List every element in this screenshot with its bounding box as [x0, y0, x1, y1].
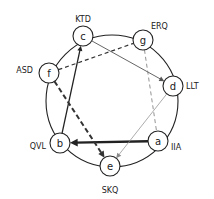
arrowhead-icon [116, 153, 121, 158]
node-letter: e [107, 161, 113, 172]
node-b: bQVL [30, 133, 70, 153]
node-c: cKTD [73, 15, 93, 47]
node-label: ERQ [151, 22, 168, 31]
edge-line [76, 141, 148, 142]
node-label: LLT [186, 82, 199, 91]
arrowhead-icon [70, 139, 78, 147]
node-letter: a [155, 136, 161, 147]
node-letter: g [140, 35, 146, 46]
node-label: SKQ [102, 186, 119, 195]
node-label: KTD [75, 15, 91, 24]
edge-line [58, 43, 133, 69]
node-label: IIA [171, 143, 182, 152]
node-f: fASD [16, 63, 59, 83]
node-a: aIIA [148, 131, 182, 152]
graph-diagram: aIIAbQVLcKTDdLLTeSKQfASDgERQ [0, 0, 214, 199]
edge-f-g [58, 43, 133, 69]
edge-b-c [62, 46, 82, 133]
node-letter: b [57, 138, 63, 149]
node-g: gERQ [133, 22, 168, 51]
node-letter: f [47, 68, 51, 79]
edge-a-b [70, 139, 148, 147]
node-d: dLLT [163, 76, 199, 96]
node-label: ASD [16, 66, 33, 75]
node-letter: c [80, 31, 86, 42]
edge-g-a [144, 50, 156, 131]
edge-line [144, 50, 156, 131]
node-letter: d [170, 81, 176, 92]
node-label: QVL [30, 142, 47, 151]
arrowhead-icon [77, 46, 82, 51]
node-e: eSKQ [100, 156, 120, 195]
graph-svg: aIIAbQVLcKTDdLLTeSKQfASDgERQ [0, 0, 214, 199]
edge-line [62, 50, 80, 134]
edge-c-d [92, 41, 165, 81]
